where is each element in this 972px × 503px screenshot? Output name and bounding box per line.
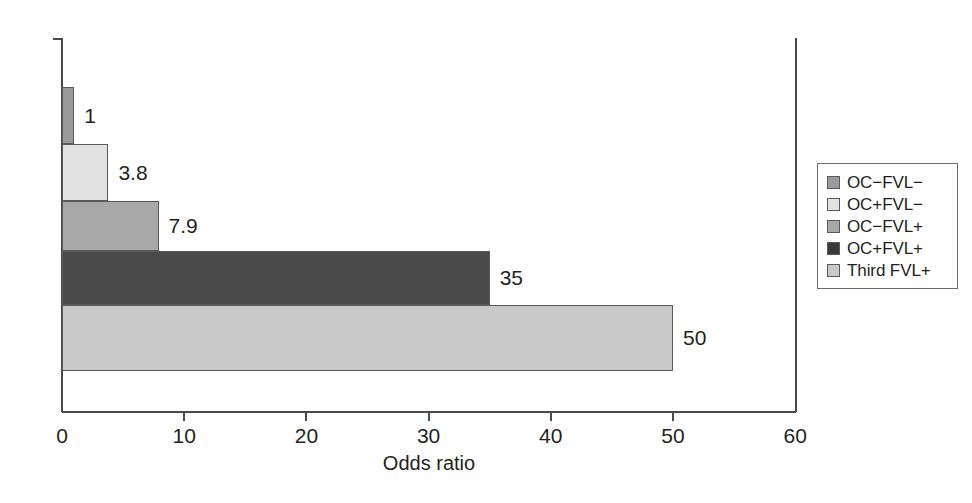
legend-color-swatch-icon <box>827 220 840 233</box>
x-axis-title: Odds ratio <box>0 452 858 475</box>
legend-item-label: OC+FVL+ <box>847 239 923 258</box>
x-axis-tick-label: 10 <box>173 424 196 448</box>
x-axis-tick-label: 20 <box>295 424 318 448</box>
x-axis-tick-label: 60 <box>784 424 807 448</box>
legend-item: OC−FVL+ <box>827 215 957 237</box>
bar <box>62 251 490 305</box>
legend-item: OC+FVL− <box>827 193 957 215</box>
legend-color-swatch-icon <box>827 198 840 211</box>
bar-value-label: 7.9 <box>169 214 198 238</box>
legend-item-label: OC−FVL+ <box>847 217 923 236</box>
legend-item-label: OC+FVL− <box>847 195 923 214</box>
legend-item: OC−FVL− <box>827 171 957 193</box>
legend-item-label: Third FVL+ <box>847 261 931 280</box>
x-axis-tick <box>305 412 307 421</box>
bar <box>62 144 108 201</box>
legend: OC−FVL−OC+FVL−OC−FVL+OC+FVL+Third FVL+ <box>817 163 958 289</box>
x-axis-tick-label: 0 <box>56 424 68 448</box>
bar-value-label: 50 <box>683 326 706 350</box>
legend-item: Third FVL+ <box>827 259 957 281</box>
x-axis-tick <box>550 412 552 421</box>
legend-color-swatch-icon <box>827 264 840 277</box>
x-axis-tick <box>672 412 674 421</box>
bar <box>62 201 159 251</box>
legend-item-label: OC−FVL− <box>847 173 923 192</box>
bar-value-label: 3.8 <box>118 161 147 185</box>
x-axis-tick-label: 40 <box>539 424 562 448</box>
bar <box>62 87 74 144</box>
bar-value-label: 1 <box>84 104 96 128</box>
x-axis-tick-label: 50 <box>661 424 684 448</box>
legend-color-swatch-icon <box>827 176 840 189</box>
x-axis-tick <box>428 412 430 421</box>
x-axis-tick-label: 30 <box>417 424 440 448</box>
x-axis-tick <box>183 412 185 421</box>
bar <box>62 305 673 371</box>
right-spine-line <box>795 38 797 412</box>
bar-value-label: 35 <box>500 266 523 290</box>
legend-item: OC+FVL+ <box>827 237 957 259</box>
odds-ratio-bar-chart: 13.87.93550 0102030405060 Odds ratio OC−… <box>0 0 972 503</box>
legend-color-swatch-icon <box>827 242 840 255</box>
